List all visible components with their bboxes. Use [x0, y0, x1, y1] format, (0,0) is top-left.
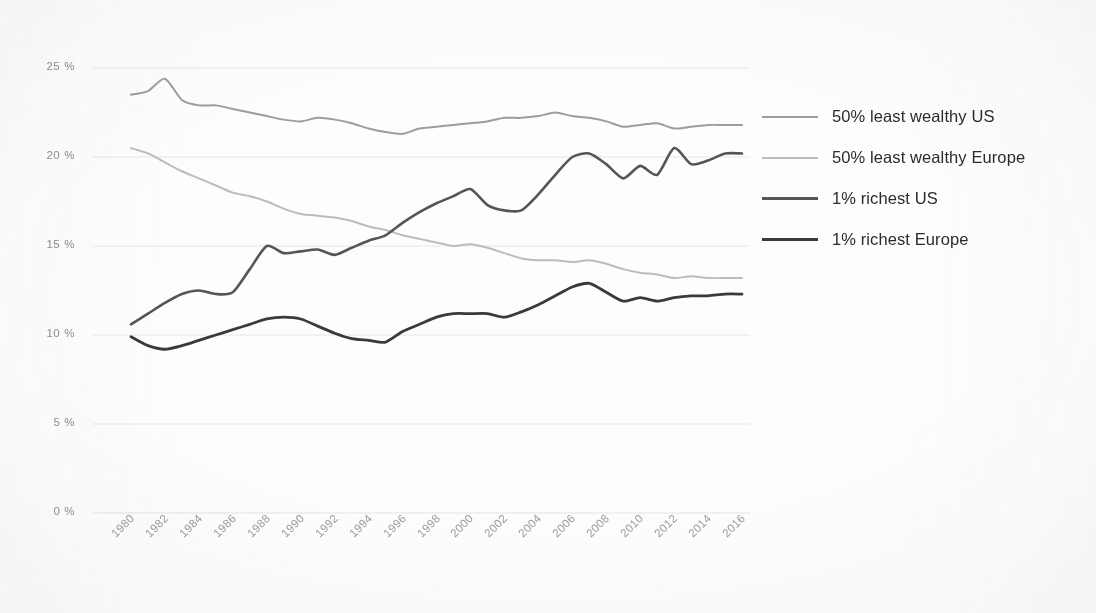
series-line	[131, 148, 742, 278]
legend-item[interactable]: 50% least wealthy US	[762, 96, 1062, 137]
chart-figure: 25 %20 %15 %10 %5 %0 % 19801982198419861…	[0, 0, 1096, 613]
legend-line-swatch-icon	[762, 116, 818, 118]
legend-line-swatch-icon	[762, 238, 818, 241]
y-axis-tick-label: 10 %	[23, 327, 75, 339]
y-axis-tick-label: 0 %	[23, 505, 75, 517]
y-axis-tick-label: 15 %	[23, 238, 75, 250]
legend-item-label: 1% richest US	[832, 189, 938, 208]
series-lines	[131, 79, 742, 350]
legend-line-swatch-icon	[762, 197, 818, 200]
y-axis-tick-label: 25 %	[23, 60, 75, 72]
legend-item[interactable]: 1% richest Europe	[762, 219, 1062, 260]
legend-item-label: 1% richest Europe	[832, 230, 969, 249]
y-axis-tick-label: 5 %	[23, 416, 75, 428]
chart-legend: 50% least wealthy US50% least wealthy Eu…	[762, 96, 1062, 260]
legend-line-swatch-icon	[762, 157, 818, 159]
legend-item-label: 50% least wealthy US	[832, 107, 995, 126]
legend-item[interactable]: 1% richest US	[762, 178, 1062, 219]
series-line	[131, 148, 742, 324]
legend-item-label: 50% least wealthy Europe	[832, 148, 1025, 167]
series-line	[131, 79, 742, 134]
y-axis-tick-label: 20 %	[23, 149, 75, 161]
legend-item[interactable]: 50% least wealthy Europe	[762, 137, 1062, 178]
